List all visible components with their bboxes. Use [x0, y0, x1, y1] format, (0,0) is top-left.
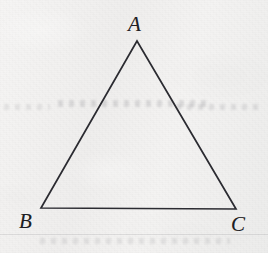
vertex-label-a: A	[128, 14, 141, 35]
vertex-label-b: B	[19, 211, 32, 232]
triangle-drawing	[0, 0, 268, 253]
geometry-figure: A B C	[0, 0, 268, 253]
vertex-label-c: C	[231, 214, 245, 235]
triangle-outline	[41, 41, 236, 209]
